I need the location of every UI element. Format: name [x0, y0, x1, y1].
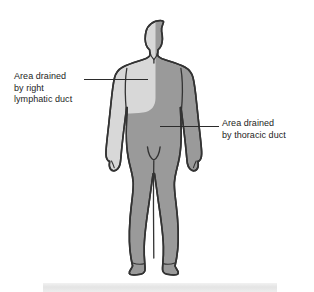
label-right-lymphatic-line-1: Area drained	[14, 71, 72, 83]
label-right-lymphatic-duct: Area drained by right lymphatic duct	[14, 71, 72, 106]
label-right-lymphatic-line-2: by right	[14, 83, 72, 95]
label-thoracic-line-2: by thoracic duct	[222, 130, 286, 142]
label-right-lymphatic-line-3: lymphatic duct	[14, 94, 72, 106]
lymphatic-drainage-diagram	[0, 0, 314, 292]
label-thoracic-line-1: Area drained	[222, 118, 286, 130]
caption-bar	[43, 283, 277, 292]
label-thoracic-duct: Area drained by thoracic duct	[222, 118, 286, 141]
